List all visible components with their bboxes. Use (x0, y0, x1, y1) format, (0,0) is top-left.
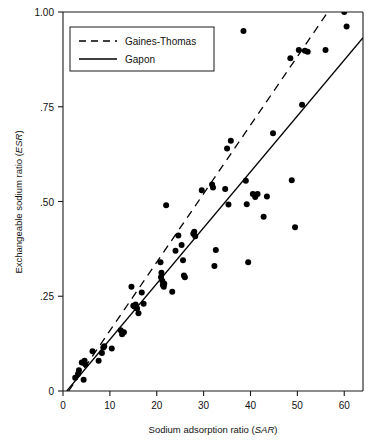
data-point (255, 191, 261, 197)
y-tick-label: .50 (40, 197, 54, 208)
y-tick-label: 0 (48, 386, 54, 397)
y-axis-title-tail: ) (13, 130, 24, 133)
data-point (240, 28, 246, 34)
data-point (169, 289, 175, 295)
data-point (81, 377, 87, 383)
data-point (192, 233, 198, 239)
data-point (158, 259, 164, 265)
data-point (292, 224, 298, 230)
chart-legend: Gaines-Thomas Gapon (70, 27, 214, 71)
scatter-plot-svg: 0.25.50.751.00 0102030405060 Gaines-Thom… (0, 0, 378, 445)
legend-label-gaines-thomas: Gaines-Thomas (125, 36, 196, 47)
y-tick-label: .25 (40, 291, 54, 302)
data-point (341, 9, 347, 15)
x-tick-label: 40 (245, 400, 257, 411)
data-point (161, 281, 167, 287)
fit-line-gapon (67, 38, 363, 391)
data-point (139, 289, 145, 295)
chart-figure: 0.25.50.751.00 0102030405060 Gaines-Thom… (0, 0, 378, 445)
data-point (101, 343, 107, 349)
data-point (109, 346, 115, 352)
data-point (210, 184, 216, 190)
legend-label-gapon: Gapon (125, 54, 155, 65)
data-point (121, 329, 127, 335)
svg-text:Exchangeable sodium ratio (ESR: Exchangeable sodium ratio (ESR) (13, 130, 24, 273)
x-tick-label: 20 (151, 400, 163, 411)
data-point (128, 284, 134, 290)
data-point (344, 23, 350, 29)
x-axis-title-italic: SAR (255, 424, 275, 435)
data-point (244, 201, 250, 207)
svg-text:Sodium adsorption ratio (SAR): Sodium adsorption ratio (SAR) (149, 424, 278, 435)
data-point (225, 202, 231, 208)
x-tick-label: 50 (292, 400, 304, 411)
data-point (96, 358, 102, 364)
data-point (199, 187, 205, 193)
data-point (299, 102, 305, 108)
data-point (213, 247, 219, 253)
data-point (179, 242, 185, 248)
data-point (180, 257, 186, 263)
data-point (222, 186, 228, 192)
data-point (90, 348, 96, 354)
data-point (261, 214, 267, 220)
data-point (323, 47, 329, 53)
data-point (243, 178, 249, 184)
data-point (224, 145, 230, 151)
y-axis-title: Exchangeable sodium ratio (ESR) (13, 130, 24, 273)
y-tick-label: 1.00 (35, 7, 55, 18)
data-point (182, 274, 188, 280)
data-point (289, 177, 295, 183)
y-axis-title-italic: ESR (13, 133, 24, 153)
data-point (83, 361, 89, 367)
data-point (287, 55, 293, 61)
data-point (158, 270, 164, 276)
data-point (305, 49, 311, 55)
data-point (173, 248, 179, 254)
x-axis-title-tail: ) (274, 424, 277, 435)
x-tick-label: 0 (60, 400, 66, 411)
y-axis-ticks: 0.25.50.751.00 (35, 7, 63, 397)
x-tick-label: 10 (104, 400, 116, 411)
x-axis-title-text: Sodium adsorption ratio ( (149, 424, 256, 435)
x-tick-label: 30 (198, 400, 210, 411)
data-point (99, 350, 105, 356)
y-axis-title-text: Exchangeable sodium ratio ( (13, 152, 24, 273)
data-point (135, 310, 141, 316)
data-point (264, 194, 270, 200)
data-point (175, 233, 181, 239)
x-axis-ticks: 0102030405060 (60, 391, 350, 411)
x-tick-label: 60 (339, 400, 351, 411)
data-point (270, 130, 276, 136)
data-point (163, 202, 169, 208)
data-point (141, 301, 147, 307)
data-point (296, 47, 302, 53)
data-point (211, 263, 217, 269)
data-point (76, 367, 82, 373)
data-point (228, 138, 234, 144)
x-axis-title: Sodium adsorption ratio (SAR) (149, 424, 278, 435)
y-tick-label: .75 (40, 102, 54, 113)
data-point (245, 259, 251, 265)
